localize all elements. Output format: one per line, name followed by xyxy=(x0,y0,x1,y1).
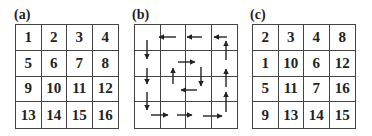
grid-b-cell xyxy=(135,77,161,103)
grid-c-cell: 2 xyxy=(253,25,279,51)
grid-b-cell xyxy=(186,102,212,128)
grid-c-cell: 4 xyxy=(304,25,330,51)
grid-b-cell xyxy=(212,25,238,51)
grid-a-cell: 7 xyxy=(67,51,93,77)
grid-c-cell: 9 xyxy=(253,102,279,128)
grid-c-cell: 11 xyxy=(279,77,305,103)
grid-c-cell: 12 xyxy=(330,51,356,77)
grid-c-cell: 5 xyxy=(253,77,279,103)
grid-b-cell xyxy=(135,25,161,51)
grid-b-cell xyxy=(135,102,161,128)
grid-a: 1 2 3 4 5 6 7 8 9 10 11 12 13 14 15 16 xyxy=(15,24,119,129)
grid-b-cell xyxy=(212,102,238,128)
grid-a-cell: 2 xyxy=(42,25,68,51)
grid-b-cell xyxy=(212,77,238,103)
grid-a-cell: 10 xyxy=(42,77,68,103)
grid-a-cell: 5 xyxy=(16,51,42,77)
grid-b-cell xyxy=(186,51,212,77)
panel-a-label: (a) xyxy=(14,7,30,23)
grid-a-cell: 8 xyxy=(93,51,119,77)
grid-c-cell: 15 xyxy=(330,102,356,128)
grid-a-cell: 11 xyxy=(67,77,93,103)
grid-b-cell xyxy=(161,51,187,77)
grid-c-cell: 16 xyxy=(330,77,356,103)
grid-c-cell: 3 xyxy=(279,25,305,51)
grid-b-cell xyxy=(135,51,161,77)
grid-c-cell: 14 xyxy=(304,102,330,128)
grid-a-cell: 15 xyxy=(67,102,93,128)
grid-b-cell xyxy=(161,25,187,51)
grid-a-cell: 6 xyxy=(42,51,68,77)
grid-b-cell xyxy=(186,25,212,51)
grid-a-cell: 12 xyxy=(93,77,119,103)
grid-a-cell: 3 xyxy=(67,25,93,51)
panel-c-label: (c) xyxy=(250,7,266,23)
grid-b-cell xyxy=(186,77,212,103)
grid-a-cell: 9 xyxy=(16,77,42,103)
grid-c-cell: 10 xyxy=(279,51,305,77)
grid-a-cell: 4 xyxy=(93,25,119,51)
grid-a-cell: 1 xyxy=(16,25,42,51)
grid-c-cell: 6 xyxy=(304,51,330,77)
grid-c-cell: 8 xyxy=(330,25,356,51)
grid-b xyxy=(134,24,238,129)
grid-b-cell xyxy=(212,51,238,77)
grid-a-cell: 14 xyxy=(42,102,68,128)
grid-c-cell: 7 xyxy=(304,77,330,103)
panel-b-label: (b) xyxy=(132,7,149,23)
grid-b-cell xyxy=(161,77,187,103)
grid-a-cell: 16 xyxy=(93,102,119,128)
grid-b-cell xyxy=(161,102,187,128)
grid-c-cell: 1 xyxy=(253,51,279,77)
grid-c-cell: 13 xyxy=(279,102,305,128)
grid-c: 2 3 4 8 1 10 6 12 5 11 7 16 9 13 14 15 xyxy=(252,24,356,129)
grid-a-cell: 13 xyxy=(16,102,42,128)
